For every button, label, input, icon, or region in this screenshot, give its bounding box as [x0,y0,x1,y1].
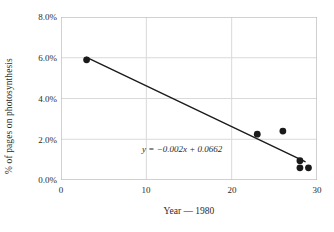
x-tick-label-20: 20 [212,185,252,195]
data-point [279,128,286,135]
x-axis-title: Year — 1980 [61,206,317,216]
plot-canvas [61,17,317,180]
x-tick-label-0: 0 [41,185,81,195]
data-point [297,164,304,171]
x-tick-label-10: 10 [126,185,166,195]
data-point [83,56,90,63]
data-point [297,157,304,164]
gridlines [61,17,317,180]
scatter-chart: % of pages on photosynthesis 8.0% 6.0% 4… [0,0,334,232]
data-point [305,164,312,171]
x-tick-label-30: 30 [297,185,334,195]
plot-area [61,17,317,180]
trendline-equation-label: y = −0.002x + 0.0662 [142,144,222,154]
data-point [254,131,261,138]
